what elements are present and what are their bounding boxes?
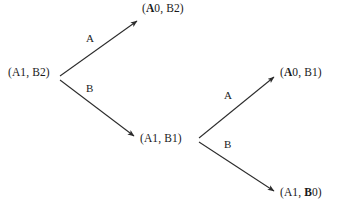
node-middle: (A1, B1) [140,132,182,144]
node-lower-right-changed: B [304,186,312,198]
edge-layer [0,0,354,213]
edge-label-root-to-top: A [86,32,94,44]
node-upper-right: (A0, B1) [280,66,322,78]
node-root: (A1, B2) [8,66,50,78]
node-middle-prefix: (A1, B [140,132,172,144]
node-root-suffix: 2) [40,66,50,78]
node-lower-right-prefix: (A1, [280,186,304,198]
edge-middle-to-upper-right [199,77,274,138]
edge-label-middle-to-upper-right: A [224,89,232,101]
node-lower-right: (A1, B0) [280,186,322,198]
node-lower-right-suffix: 0) [312,186,322,198]
edge-root-to-top [60,21,137,76]
node-upper-right-suffix: 0, B1) [292,66,321,78]
edge-middle-to-lower-right [199,142,274,191]
node-top-suffix: 0, B2) [154,2,183,14]
edge-root-to-middle [60,80,134,136]
edge-label-root-to-middle: B [86,82,93,94]
node-root-prefix: (A1, B [8,66,40,78]
edge-label-middle-to-lower-right: B [224,138,231,150]
decision-tree-diagram: (A1, B2) (A0, B2) (A1, B1) (A0, B1) (A1,… [0,0,354,213]
node-top: (A0, B2) [142,2,184,14]
node-middle-suffix: 1) [172,132,182,144]
